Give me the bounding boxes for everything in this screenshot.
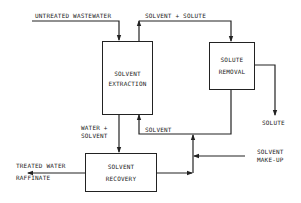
untreated-wastewater-label: UNTREATED WASTEWATER: [35, 12, 111, 19]
solvent-extraction-label-1: SOLVENT: [114, 68, 141, 80]
treated-water-label: TREATED WATER: [16, 162, 66, 169]
solvent-return-label: SOLVENT: [145, 126, 172, 133]
solvent-recovery-label-2: RECOVERY: [106, 173, 137, 185]
solute-removal-label-2: REMOVAL: [219, 66, 246, 78]
solute-removal-box: SOLUTE REMOVAL: [209, 42, 255, 90]
solvent-extraction-label-2: EXTRACTION: [108, 80, 146, 88]
solute-outflow-line: [254, 65, 275, 115]
solvent-recovery-box: SOLVENT RECOVERY: [85, 153, 157, 192]
raffinate-label: RAFFINATE: [16, 174, 50, 181]
solvent-solute-label: SOLVENT + SOLUTE: [145, 12, 206, 19]
wastewater-inflow-line: [32, 21, 119, 40]
solute-output-label: SOLUTE: [262, 119, 285, 126]
solvent-extraction-box: SOLVENT EXTRACTION: [102, 41, 153, 115]
solvent-recovery-label-1: SOLVENT: [108, 161, 135, 173]
process-flow-diagram: SOLVENT EXTRACTION SOLUTE REMOVAL SOLVEN…: [0, 0, 301, 203]
solvent-solute-line-2: [139, 21, 231, 41]
solvent-makeup-label-1: SOLVENT: [257, 148, 284, 155]
water-solvent-label-2: SOLVENT: [81, 132, 108, 139]
solvent-makeup-label-2: MAKE-UP: [257, 156, 284, 163]
water-solvent-label-1: WATER +: [81, 124, 108, 131]
solute-removal-label-1: SOLUTE: [221, 54, 244, 66]
